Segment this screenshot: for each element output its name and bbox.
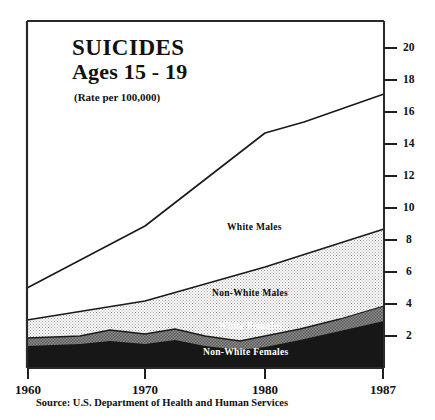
series-label-white-females: White Females xyxy=(218,322,282,332)
y-axis-label-20: 20 xyxy=(403,42,415,54)
y-axis-label-18: 18 xyxy=(403,74,415,86)
chart-title-line2: Ages 15 - 19 xyxy=(72,61,187,83)
x-axis-label-1960: 1960 xyxy=(15,383,41,396)
rate-note: (Rate per 100,000) xyxy=(74,92,160,103)
series-label-white-males: White Males xyxy=(227,223,282,233)
y-axis-label-4: 4 xyxy=(406,298,412,310)
x-axis-ticks xyxy=(28,368,383,379)
series-label-non-white-males: Non-White Males xyxy=(212,289,288,299)
y-axis-label-16: 16 xyxy=(403,106,415,118)
x-axis-label-1987: 1987 xyxy=(370,383,396,396)
y-axis-ticks xyxy=(384,48,397,336)
y-axis-label-6: 6 xyxy=(406,266,412,278)
y-axis-label-14: 14 xyxy=(403,138,415,150)
y-axis-label-8: 8 xyxy=(406,234,412,246)
y-axis-label-12: 12 xyxy=(403,170,415,182)
y-axis-label-2: 2 xyxy=(406,330,412,342)
x-axis-label-1970: 1970 xyxy=(132,383,158,396)
source-note: Source: U.S. Department of Health and Hu… xyxy=(36,398,288,409)
y-axis-label-10: 10 xyxy=(403,202,415,214)
x-axis-label-1980: 1980 xyxy=(252,383,278,396)
suicides-stacked-area-figure: SUICIDES Ages 15 - 19 (Rate per 100,000)… xyxy=(0,0,435,420)
series-label-non-white-females: Non-White Females xyxy=(203,348,289,358)
chart-title-line1: SUICIDES xyxy=(72,36,185,59)
